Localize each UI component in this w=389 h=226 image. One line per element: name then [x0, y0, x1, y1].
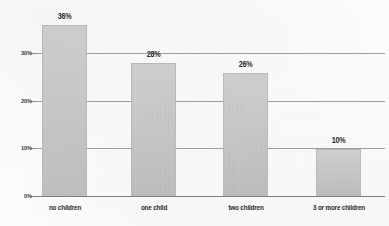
y-axis-label-20: 20%: [10, 97, 32, 104]
category-label-two-children: two children: [211, 203, 281, 212]
category-label-3-or-more-children: 3 or more children: [299, 203, 378, 212]
y-axis-label-10: 10%: [10, 144, 32, 151]
x-axis-baseline: [33, 196, 385, 197]
value-label-no-children: 36%: [45, 11, 84, 21]
value-label-one-child: 28%: [134, 49, 173, 59]
bar-3-or-more-children[interactable]: [316, 149, 361, 196]
bar-chart: 30% 20% 10% 0% 36% 28% 26% 10% no childr…: [0, 0, 389, 226]
bar-no-children[interactable]: [42, 25, 87, 196]
category-label-no-children: no children: [30, 203, 100, 212]
value-label-3-or-more-children: 10%: [319, 135, 358, 145]
y-axis-label-30: 30%: [10, 49, 32, 56]
value-label-two-children: 26%: [226, 59, 265, 69]
plot-area: 30% 20% 10% 0% 36% 28% 26% 10% no childr…: [0, 0, 389, 226]
bar-one-child[interactable]: [131, 63, 176, 196]
category-label-one-child: one child: [119, 203, 189, 212]
bar-two-children[interactable]: [223, 73, 268, 196]
y-axis-label-0: 0%: [10, 192, 32, 199]
